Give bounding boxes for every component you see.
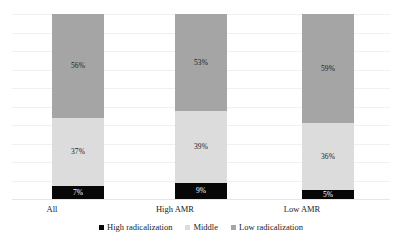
bar-stack-high-amr[interactable]: 53% 39% 9% (175, 14, 227, 199)
legend-label: High radicalization (107, 222, 172, 232)
category-label-high-amr: High AMR (120, 204, 230, 214)
legend-item-middle[interactable]: Middle (185, 222, 218, 232)
legend-item-low-radicalization[interactable]: Low radicalization (231, 222, 303, 232)
chart-legend: High radicalization Middle Low radicaliz… (0, 222, 402, 232)
stacked-bar-chart: 56% 37% 7% 53% 39% 9% 59% (0, 0, 402, 247)
bar-segment-high-radicalization[interactable]: 5% (302, 190, 354, 199)
legend-label: Middle (193, 222, 218, 232)
bar-segment-low-radicalization[interactable]: 56% (52, 14, 104, 118)
bar-segment-middle[interactable]: 39% (175, 111, 227, 182)
bar-segment-high-radicalization[interactable]: 9% (175, 183, 227, 199)
category-label-all: All (0, 204, 107, 214)
legend-swatch-icon (185, 225, 190, 230)
bar-segment-low-radicalization[interactable]: 53% (175, 14, 227, 111)
bar-segment-label: 59% (321, 65, 335, 73)
bar-segment-label: 5% (323, 191, 333, 199)
bar-stack-all[interactable]: 56% 37% 7% (52, 14, 104, 199)
category-axis-line (12, 199, 390, 200)
bar-segment-label: 39% (194, 143, 208, 151)
bar-segment-label: 37% (71, 148, 85, 156)
bar-segment-middle[interactable]: 36% (302, 123, 354, 190)
legend-swatch-icon (231, 225, 236, 230)
category-label-low-amr: Low AMR (247, 204, 357, 214)
bar-segment-label: 7% (73, 189, 83, 197)
bar-segment-label: 56% (71, 62, 85, 70)
bar-segment-label: 9% (196, 187, 206, 195)
bar-stack-low-amr[interactable]: 59% 36% 5% (302, 14, 354, 199)
legend-item-high-radicalization[interactable]: High radicalization (99, 222, 172, 232)
plot-area: 56% 37% 7% 53% 39% 9% 59% (12, 14, 390, 200)
legend-swatch-icon (99, 225, 104, 230)
bar-segment-middle[interactable]: 37% (52, 118, 104, 186)
bar-segment-high-radicalization[interactable]: 7% (52, 186, 104, 199)
bar-segment-low-radicalization[interactable]: 59% (302, 14, 354, 123)
legend-label: Low radicalization (239, 222, 303, 232)
bar-segment-label: 36% (321, 153, 335, 161)
bar-segment-label: 53% (194, 59, 208, 67)
